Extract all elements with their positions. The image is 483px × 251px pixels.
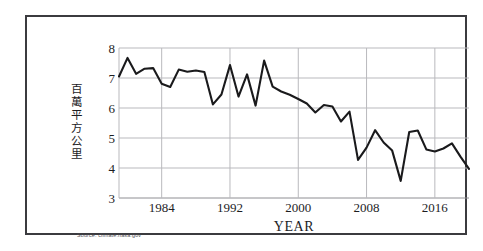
y-tick-label-6: 6	[95, 102, 115, 115]
y-tick-label-8: 8	[95, 42, 115, 55]
figure-container: 百萬平方公里 345678 19841992200020082016 YEAR …	[0, 0, 483, 251]
gridlines	[119, 48, 469, 198]
x-tick-label-1984: 1984	[149, 201, 175, 214]
plot-area	[119, 48, 469, 198]
x-axis-title: YEAR	[119, 219, 469, 235]
x-tick-label-2016: 2016	[422, 201, 448, 214]
source-credit: Source: climate.nasa.gov	[77, 232, 141, 238]
x-tick-label-2000: 2000	[285, 201, 311, 214]
x-tick-label-1992: 1992	[217, 201, 243, 214]
x-axis-tick-labels: 19841992200020082016	[119, 201, 469, 219]
x-tick-label-2008: 2008	[354, 201, 380, 214]
series-line-arctic-sea-ice-extent	[119, 58, 469, 181]
y-tick-label-5: 5	[95, 132, 115, 145]
line-chart-svg	[119, 48, 469, 198]
y-tick-label-4: 4	[95, 162, 115, 175]
figure-frame: 百萬平方公里 345678 19841992200020082016 YEAR …	[25, 15, 467, 235]
y-axis-tick-labels: 345678	[93, 48, 115, 198]
y-axis-label: 百萬平方公里	[60, 62, 82, 182]
y-tick-label-7: 7	[95, 72, 115, 85]
y-tick-label-3: 3	[95, 192, 115, 205]
